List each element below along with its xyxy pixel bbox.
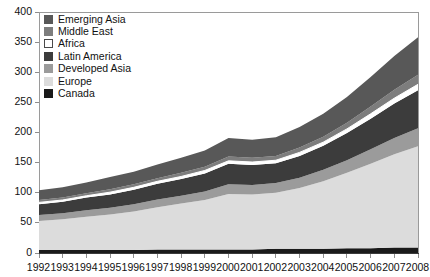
x-axis-tick — [181, 254, 182, 258]
x-axis-tick — [299, 254, 300, 258]
y-axis-tick-label: 0 — [2, 247, 32, 258]
y-axis-tick-label: 400 — [2, 6, 32, 17]
x-axis-tick — [418, 254, 419, 258]
legend-item[interactable]: Canada — [44, 87, 131, 99]
legend-item-label: Africa — [58, 38, 85, 49]
x-axis-tick-label: 2008 — [398, 261, 430, 273]
y-axis-tick — [35, 42, 39, 43]
legend-swatch-icon — [44, 64, 53, 73]
legend-swatch-icon — [44, 27, 53, 36]
legend-item[interactable]: Middle East — [44, 25, 131, 37]
legend-swatch-icon — [44, 77, 53, 86]
x-axis-tick — [133, 254, 134, 258]
y-axis-tick-label: 150 — [2, 156, 32, 167]
y-axis-tick — [35, 222, 39, 223]
legend-item-label: Middle East — [58, 26, 113, 37]
x-axis-tick — [204, 254, 205, 258]
legend-item-label: Canada — [58, 88, 95, 99]
x-axis-tick — [394, 254, 395, 258]
y-axis-tick — [35, 102, 39, 103]
legend-swatch-icon — [44, 89, 53, 98]
x-axis-tick — [323, 254, 324, 258]
y-axis-tick-label: 50 — [2, 216, 32, 227]
legend-item[interactable]: Europe — [44, 75, 131, 87]
y-axis-tick-label: 100 — [2, 186, 32, 197]
legend-swatch-icon — [44, 39, 53, 48]
x-axis-tick — [157, 254, 158, 258]
y-axis-tick-label: 250 — [2, 96, 32, 107]
x-axis-tick — [110, 254, 111, 258]
y-axis-tick-label: 200 — [2, 126, 32, 137]
x-axis-tick — [252, 254, 253, 258]
y-axis-tick — [35, 72, 39, 73]
y-axis-tick — [35, 12, 39, 13]
legend-item-label: Europe — [58, 76, 92, 87]
legend-item[interactable]: Emerging Asia — [44, 13, 131, 25]
legend-item[interactable]: Africa — [44, 38, 131, 50]
y-axis-tick — [35, 132, 39, 133]
legend-item-label: Latin America — [58, 51, 122, 62]
legend-swatch-icon — [44, 52, 53, 61]
y-axis-tick — [35, 162, 39, 163]
x-axis-tick — [86, 254, 87, 258]
legend-item[interactable]: Latin America — [44, 50, 131, 62]
x-axis-tick — [346, 254, 347, 258]
chart-legend: Emerging AsiaMiddle EastAfricaLatin Amer… — [44, 13, 131, 100]
plot-right-border — [418, 12, 419, 253]
y-axis-tick — [35, 192, 39, 193]
y-axis-tick-label: 300 — [2, 66, 32, 77]
legend-item-label: Developed Asia — [58, 63, 131, 74]
legend-swatch-icon — [44, 15, 53, 24]
y-axis-tick — [35, 253, 39, 254]
x-axis-tick — [62, 254, 63, 258]
y-axis-tick-label: 350 — [2, 36, 32, 47]
x-axis-tick — [370, 254, 371, 258]
x-axis-tick — [228, 254, 229, 258]
legend-item[interactable]: Developed Asia — [44, 63, 131, 75]
x-axis-tick — [39, 254, 40, 258]
stacked-area-chart: 050100150200250300350400 199219931994199… — [0, 0, 430, 277]
legend-item-label: Emerging Asia — [58, 14, 126, 25]
x-axis-tick — [275, 254, 276, 258]
